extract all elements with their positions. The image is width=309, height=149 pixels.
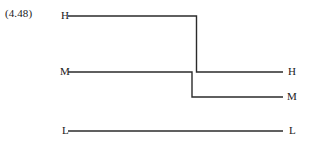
step-trace-group [0, 0, 309, 149]
trace-medium-to-low [68, 72, 283, 97]
trace-high-to-medium [68, 16, 283, 72]
level-transition-figure: (4.48) H M L H M L [0, 0, 309, 149]
